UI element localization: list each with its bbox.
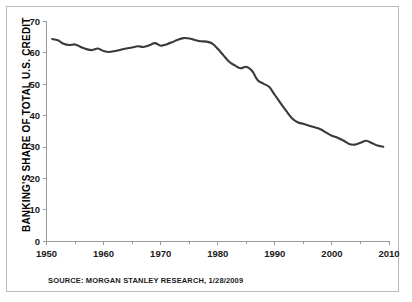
x-tick-label: 2000	[321, 248, 342, 259]
y-tick-label: 20	[29, 173, 40, 184]
y-tick-label: 60	[29, 47, 40, 58]
y-axis-ticks	[43, 22, 47, 242]
y-tick-label: 70	[29, 16, 40, 27]
x-axis-labels: 1950196019701980199020002010	[36, 248, 400, 259]
source-note: SOURCE: MORGAN STANLEY RESEARCH, 1/28/20…	[48, 276, 243, 285]
x-tick-label: 1960	[93, 248, 114, 259]
chart-figure: BANKING'S SHARE OF TOTAL U.S. CREDIT 70 …	[0, 0, 412, 302]
y-tick-label: 10	[29, 204, 40, 215]
y-tick-label: 30	[29, 141, 40, 152]
x-tick-label: 1990	[264, 248, 285, 259]
x-tick-label: 1970	[150, 248, 171, 259]
y-tick-label: 0	[35, 236, 40, 247]
y-tick-label: 40	[29, 110, 40, 121]
x-tick-label: 1980	[207, 248, 228, 259]
x-tick-label: 1950	[36, 248, 57, 259]
x-tick-label: 2010	[378, 248, 399, 259]
data-series-line	[52, 38, 383, 147]
y-tick-label: 50	[29, 79, 40, 90]
chart-plot: BANKING'S SHARE OF TOTAL U.S. CREDIT 70 …	[0, 0, 412, 302]
